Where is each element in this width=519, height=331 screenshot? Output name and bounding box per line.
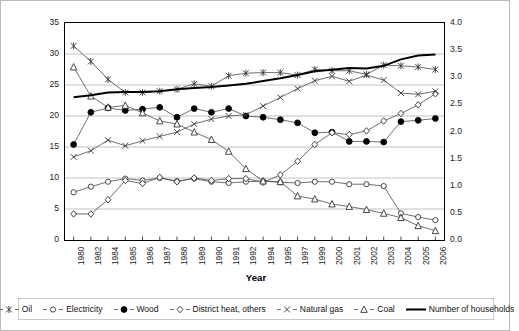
legend-star-icon	[0, 304, 20, 315]
x-tick: 2001	[352, 247, 362, 265]
y-tick-left: 0	[33, 234, 59, 244]
y-tick-right: 0.5	[450, 207, 476, 217]
x-tick: 2000	[334, 247, 344, 265]
x-tick: 1994	[266, 247, 276, 265]
y-tick-left: 15	[33, 141, 59, 151]
legend-diamond-open-icon	[169, 304, 191, 315]
y-tick-left: 30	[33, 48, 59, 58]
legend-label: Natural gas	[300, 304, 343, 314]
y-axis-left-title: Heating of private households [%]	[0, 0, 9, 21]
y-tick-left: 20	[33, 110, 59, 120]
x-tick: 1991	[231, 247, 241, 265]
x-tick: 1986	[145, 247, 155, 265]
x-tick: 1987	[162, 247, 172, 265]
legend-label: Number of households	[429, 304, 515, 314]
legend-item-district-heat-others[interactable]: District heat, others	[164, 304, 271, 315]
y-tick-right: 3.5	[450, 44, 476, 54]
x-tick: 1982	[93, 247, 103, 265]
x-tick: 1990	[214, 247, 224, 265]
y-tick-right: 3.0	[450, 71, 476, 81]
x-tick: 1992	[248, 247, 258, 265]
y-tick-right: 0.0	[450, 234, 476, 244]
y-tick-right: 2.5	[450, 98, 476, 108]
x-tick: 2003	[386, 247, 396, 265]
legend-item-oil[interactable]: Oil	[0, 304, 37, 315]
x-tick: 1989	[197, 247, 207, 265]
x-tick: 2004	[403, 247, 413, 265]
legend-item-coal[interactable]: Coal	[348, 304, 399, 315]
x-tick: 1997	[300, 247, 310, 265]
series-line	[74, 54, 436, 97]
x-tick: 1980	[76, 247, 86, 265]
x-tick: 2006	[438, 247, 448, 265]
x-tick: 1995	[283, 247, 293, 265]
series-line	[74, 46, 436, 93]
series-line	[74, 107, 436, 144]
y-axis-right-title: Total number of households [million]	[493, 0, 515, 35]
y-tick-left: 5	[33, 203, 59, 213]
y-tick-left: 25	[33, 79, 59, 89]
plot-area	[64, 22, 445, 241]
y-tick-right: 1.0	[450, 180, 476, 190]
y-tick-right: 4.0	[450, 17, 476, 27]
series-canvas	[65, 23, 444, 240]
legend-item-wood[interactable]: Wood	[108, 304, 164, 315]
x-tick: 2002	[369, 247, 379, 265]
legend-cross-icon	[276, 304, 298, 315]
series-line	[74, 178, 436, 220]
legend-item-number-of-households[interactable]: Number of households	[400, 304, 519, 315]
chart-legend: OilElectricityWoodDistrict heat, othersN…	[18, 298, 494, 320]
x-axis-title: Year	[1, 272, 511, 283]
legend-triangle-open-icon	[353, 304, 375, 315]
legend-line-icon	[405, 304, 427, 315]
y-tick-left: 35	[33, 17, 59, 27]
legend-label: Coal	[377, 304, 394, 314]
legend-label: Electricity	[66, 304, 102, 314]
legend-label: District heat, others	[193, 304, 266, 314]
legend-label: Oil	[22, 304, 32, 314]
x-tick: 2005	[421, 247, 431, 265]
y-tick-right: 2.0	[450, 126, 476, 136]
legend-item-electricity[interactable]: Electricity	[37, 304, 107, 315]
y-tick-right: 1.5	[450, 153, 476, 163]
legend-circle-open-icon	[42, 304, 64, 315]
x-tick: 1985	[128, 247, 138, 265]
legend-item-natural-gas[interactable]: Natural gas	[271, 304, 348, 315]
legend-circle-filled-icon	[113, 304, 135, 315]
x-tick: 1984	[110, 247, 120, 265]
x-tick: 1999	[317, 247, 327, 265]
x-tick: 1988	[179, 247, 189, 265]
y-tick-left: 10	[33, 172, 59, 182]
legend-label: Wood	[137, 304, 159, 314]
